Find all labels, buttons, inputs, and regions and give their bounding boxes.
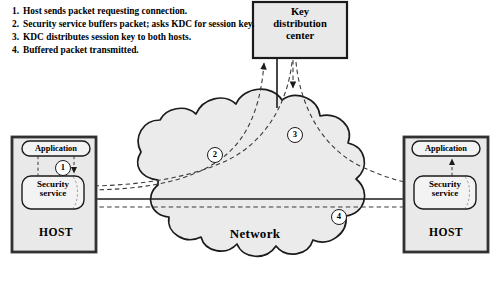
step-number: 2.: [12, 18, 23, 30]
host-right-security-label: Security service: [416, 180, 474, 199]
key-distribution-diagram: 1. Host sends packet requesting connecti…: [0, 0, 501, 287]
host-left-security-label: Security service: [24, 180, 82, 199]
step-item: 1. Host sends packet requesting connecti…: [12, 5, 267, 17]
step-marker-3: 3: [287, 127, 303, 143]
steps-legend: 1. Host sends packet requesting connecti…: [12, 5, 267, 57]
host-left-application-label: Application: [24, 145, 88, 154]
network-label: Network: [200, 227, 310, 242]
step-number: 3.: [12, 31, 23, 43]
step-item: 4. Buffered packet transmitted.: [12, 44, 267, 56]
step-number: 4.: [12, 44, 23, 56]
step-marker-4: 4: [331, 209, 347, 225]
kdc-label: Key distribution center: [257, 6, 343, 42]
host-right-application-label: Application: [414, 145, 478, 154]
step-text: Security service buffers packet; asks KD…: [23, 18, 267, 30]
step-marker-2: 2: [207, 147, 223, 163]
step-number: 1.: [12, 5, 23, 17]
host-right-label: HOST: [408, 226, 484, 239]
step-item: 3. KDC distributes session key to both h…: [12, 31, 267, 43]
step-item: 2. Security service buffers packet; asks…: [12, 18, 267, 30]
step-text: Host sends packet requesting connection.: [23, 5, 267, 17]
host-left-label: HOST: [18, 226, 94, 239]
step-text: Buffered packet transmitted.: [23, 44, 267, 56]
step-text: KDC distributes session key to both host…: [23, 31, 267, 43]
step-marker-1: 1: [55, 160, 71, 176]
